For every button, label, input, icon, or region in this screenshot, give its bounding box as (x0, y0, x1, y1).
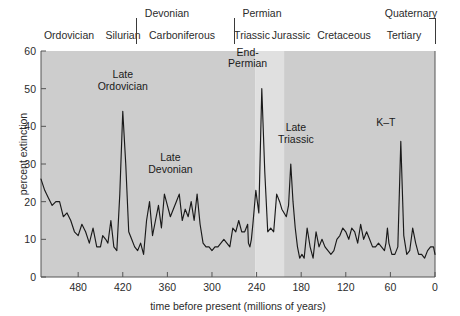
annotation-late-triassic: Late Triassic (256, 122, 336, 145)
annotation-k-t: K–T (346, 117, 426, 129)
x-axis-title: time before present (millions of years) (41, 300, 435, 312)
annotation-end-permian: End- Permian (208, 47, 288, 70)
annotation-late-ordovician: Late Ordovician (83, 69, 163, 92)
y-tick-label: 50 (0, 84, 36, 95)
y-axis-title: percent extinction (17, 104, 29, 204)
band-late (284, 51, 435, 277)
y-tick-label: 60 (0, 46, 36, 57)
x-tick-label: 0 (405, 282, 460, 293)
y-tick-label: 0 (0, 272, 36, 283)
extinction-chart-figure: Devonian Permian Quaternary Ordovician S… (0, 0, 460, 316)
y-tick-label: 10 (0, 234, 36, 245)
annotation-late-devonian: Late Devonian (130, 152, 210, 175)
